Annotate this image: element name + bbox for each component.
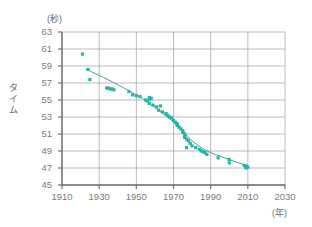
data-point	[135, 94, 138, 97]
x-axis-tick-label: 1970	[154, 192, 194, 202]
data-point	[246, 166, 249, 169]
y-axis-tick-label: 61	[26, 44, 52, 54]
y-axis-tick-label: 57	[26, 78, 52, 88]
x-axis-tick-label: 1910	[42, 192, 82, 202]
data-point	[155, 105, 158, 108]
data-point	[131, 93, 134, 96]
x-axis-tick-label: 2030	[265, 192, 305, 202]
data-point	[228, 158, 231, 161]
data-point	[151, 104, 154, 107]
data-point	[148, 102, 151, 105]
x-axis-tick-label: 1930	[79, 192, 119, 202]
x-axis-tick-label: 1950	[116, 192, 156, 202]
data-point	[157, 109, 160, 112]
data-point	[205, 153, 208, 156]
data-point	[112, 88, 115, 91]
data-point	[81, 53, 84, 56]
x-axis-tick-label: 1990	[191, 192, 231, 202]
y-axis-tick-label: 53	[26, 112, 52, 122]
data-point	[150, 97, 153, 100]
data-point	[127, 90, 130, 93]
y-axis-tick-label: 55	[26, 95, 52, 105]
data-point	[217, 156, 220, 159]
data-point	[161, 110, 164, 113]
data-point	[86, 68, 89, 71]
y-axis-tick-label: 59	[26, 61, 52, 71]
data-point	[88, 78, 91, 81]
y-axis-tick-label: 63	[26, 27, 52, 37]
y-axis-tick-label: 51	[26, 129, 52, 139]
x-axis-unit-label: (年)	[272, 206, 287, 219]
data-point	[138, 95, 141, 98]
data-point	[228, 161, 231, 164]
data-point	[159, 104, 162, 107]
y-axis-tick-label: 47	[26, 163, 52, 173]
data-point	[190, 144, 193, 147]
y-axis-tick-label: 49	[26, 146, 52, 156]
y-axis-tick-label: 45	[26, 180, 52, 190]
chart-container: (秒) タ イ ム (年) 63615957555351494745 19101…	[0, 0, 312, 227]
data-point	[194, 146, 197, 149]
data-point	[185, 146, 188, 149]
x-axis-tick-label: 2010	[228, 192, 268, 202]
